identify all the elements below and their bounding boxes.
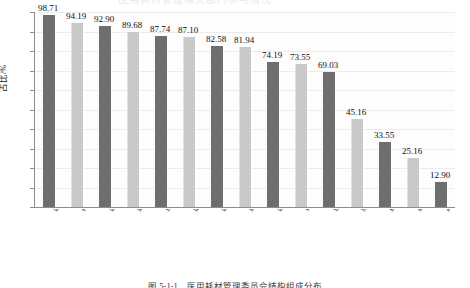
bar-value-label: 69.03: [318, 61, 338, 70]
bar-fill: [155, 36, 168, 207]
bar: [71, 23, 84, 207]
bar: [43, 15, 56, 207]
bar: [183, 37, 196, 207]
x-axis-category-label: 医保管理: [191, 209, 216, 214]
y-axis-tick: [30, 110, 34, 111]
bar-value-label: 73.55: [290, 53, 310, 62]
bar-value-label: 33.55: [374, 131, 394, 140]
y-axis-tick: [30, 12, 34, 13]
x-axis-category-label: 病案管理: [415, 209, 440, 214]
bar-value-label: 25.16: [402, 147, 422, 156]
x-axis-category-label: 纪检监察: [247, 209, 272, 214]
x-axis-category-label: 经营管理: [359, 209, 384, 214]
x-axis-category-label: 信息管理: [331, 209, 356, 214]
bar: [295, 64, 308, 207]
bar-value-label: 87.74: [150, 25, 170, 34]
bar-value-label: 98.71: [38, 4, 58, 13]
bar-fill: [323, 72, 336, 207]
bar-value-label: 92.90: [94, 15, 114, 24]
bar: [127, 32, 140, 207]
y-axis-title: 占比/%: [0, 65, 8, 92]
clipped-title-strip: 医用耗材管理相关部门参与情况: [0, 0, 470, 11]
x-axis-category-labels: 医用耗材管理相关临床科室医务管理财务管理护理医保管理医院感染管理纪检监察医技科室…: [0, 209, 470, 271]
bar-fill: [211, 46, 224, 207]
clipped-title-text: 医用耗材管理相关部门参与情况: [118, 0, 272, 6]
bar-value-label: 74.19: [262, 51, 282, 60]
bar-fill: [351, 119, 364, 207]
figure-caption: 图 5-1-1 医用耗材管理委员会结构组成分布: [0, 279, 470, 288]
bar: [351, 119, 364, 207]
bar-series: 98.7194.1992.9089.6887.7487.1082.5881.94…: [35, 12, 455, 207]
bar-fill: [295, 64, 308, 207]
chart-container: 医用耗材管理相关部门参与情况 0102030405060708090100 占比…: [0, 0, 470, 288]
bar: [435, 182, 448, 207]
bar-fill: [99, 26, 112, 207]
bar-fill: [71, 23, 84, 207]
y-axis-tick: [30, 188, 34, 189]
x-axis-category-label: 审计: [303, 209, 319, 214]
bar-value-label: 89.68: [122, 21, 142, 30]
bar: [323, 72, 336, 207]
y-axis-tick: [30, 149, 34, 150]
y-axis-tick: [30, 32, 34, 33]
bar: [267, 62, 280, 207]
x-axis-category-label: 药学: [387, 209, 403, 214]
bar-fill: [183, 37, 196, 207]
x-axis-category-label: 医务管理: [107, 209, 132, 214]
y-axis-tick: [30, 129, 34, 130]
x-axis-category-label: 其他: [443, 209, 459, 214]
bar: [407, 158, 420, 207]
x-axis-line: [34, 207, 455, 208]
bar: [211, 46, 224, 207]
bar-fill: [239, 47, 252, 207]
bar-value-label: 82.58: [206, 35, 226, 44]
bar-value-label: 87.10: [178, 26, 198, 35]
y-axis-tick: [30, 90, 34, 91]
bar: [155, 36, 168, 207]
y-axis-tick: [30, 207, 34, 208]
x-axis-category-label: 财务管理: [135, 209, 160, 214]
y-axis-tick: [30, 168, 34, 169]
bar: [239, 47, 252, 207]
bar: [99, 26, 112, 207]
x-axis-category-label: 护理: [163, 209, 179, 214]
bar: [379, 142, 392, 207]
y-axis-tick: [30, 71, 34, 72]
bar-value-label: 94.19: [66, 12, 86, 21]
bar-fill: [407, 158, 420, 207]
bar-value-label: 81.94: [234, 36, 254, 45]
bar-fill: [127, 32, 140, 207]
bar-value-label: 12.90: [430, 171, 450, 180]
bar-fill: [435, 182, 448, 207]
x-axis-category-label: 医技科室: [275, 209, 300, 214]
y-axis-tick: [30, 51, 34, 52]
bar-fill: [43, 15, 56, 207]
bar-value-label: 45.16: [346, 108, 366, 117]
bar-fill: [267, 62, 280, 207]
bar-fill: [379, 142, 392, 207]
